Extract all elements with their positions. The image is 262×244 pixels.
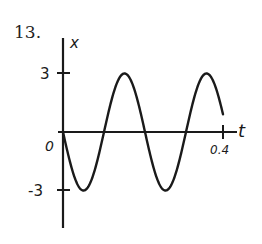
chart: x t 3 -3 0 0.4 xyxy=(0,0,262,244)
y-axis-label: x xyxy=(69,34,79,52)
y-tick-label-3: 3 xyxy=(40,65,50,83)
y-tick-label-neg3: -3 xyxy=(28,182,43,200)
x-tick-label-0.4: 0.4 xyxy=(210,143,229,157)
x-axis-label: t xyxy=(238,120,246,141)
origin-label: 0 xyxy=(45,138,54,154)
